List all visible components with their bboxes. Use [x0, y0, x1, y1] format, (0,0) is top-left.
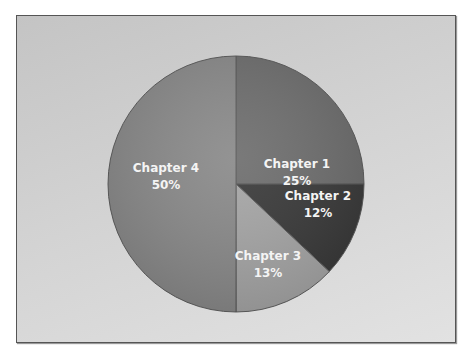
slice-label-name: Chapter 1 [264, 157, 330, 171]
slice-label-name: Chapter 3 [235, 249, 301, 263]
slice-label-name: Chapter 4 [133, 161, 199, 175]
slice-label-percent: 25% [283, 174, 312, 188]
slice-label-name: Chapter 2 [285, 189, 351, 203]
slice-label-percent: 50% [152, 178, 181, 192]
slice-label-percent: 13% [254, 266, 283, 280]
slice-label-percent: 12% [304, 206, 333, 220]
pie-chart: Chapter 125%Chapter 212%Chapter 313%Chap… [0, 0, 475, 364]
